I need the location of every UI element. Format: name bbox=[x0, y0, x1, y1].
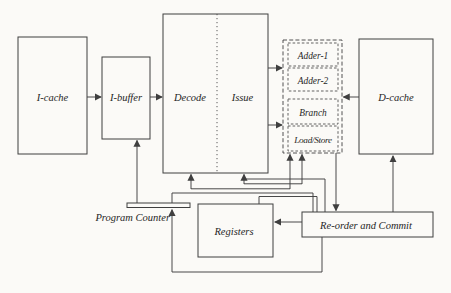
decode-label: Decode bbox=[173, 92, 206, 103]
i-cache-label: I-cache bbox=[36, 92, 69, 103]
program-counter-label: Program Counter bbox=[94, 212, 170, 223]
registers-label: Registers bbox=[213, 226, 253, 237]
branch-label: Branch bbox=[299, 108, 327, 118]
block-i-cache: I-cache bbox=[18, 37, 87, 154]
block-functional-units: Adder-1 Adder-2 Branch Load/Store bbox=[283, 40, 342, 153]
d-cache-label: D-cache bbox=[377, 92, 414, 103]
block-i-buffer: I-buffer bbox=[102, 57, 150, 139]
block-d-cache: D-cache bbox=[359, 39, 433, 154]
i-buffer-label: I-buffer bbox=[109, 92, 143, 103]
program-counter-bar bbox=[127, 203, 190, 208]
load-store-label: Load/Store bbox=[293, 135, 332, 145]
reorder-commit-label: Re-order and Commit bbox=[319, 220, 413, 231]
diagram-canvas: I-cache I-buffer Decode Issue Adder-1 Ad… bbox=[0, 0, 451, 293]
figure-superscalar-pipeline: I-cache I-buffer Decode Issue Adder-1 Ad… bbox=[0, 0, 451, 293]
block-program-counter: Program Counter bbox=[94, 203, 190, 223]
adder-1-label: Adder-1 bbox=[297, 51, 329, 61]
block-reorder-commit: Re-order and Commit bbox=[302, 212, 433, 237]
block-decode-issue: Decode Issue bbox=[163, 14, 268, 173]
adder-2-label: Adder-2 bbox=[297, 76, 329, 86]
issue-label: Issue bbox=[231, 92, 254, 103]
block-registers: Registers bbox=[198, 204, 273, 257]
